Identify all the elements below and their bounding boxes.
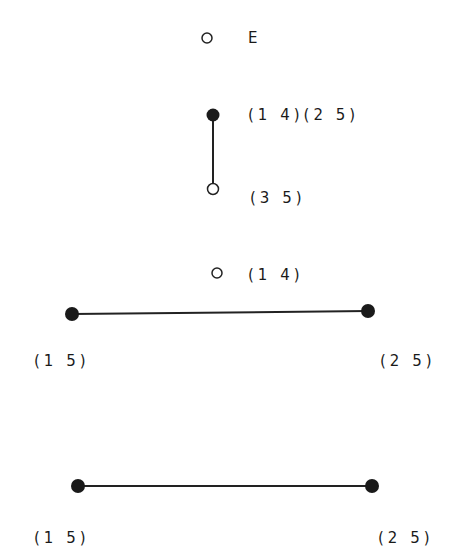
- label-v-top: (1 4)(2 5): [248, 106, 359, 124]
- label-isolated: (1 4): [248, 266, 304, 284]
- label-g3-left: (1 5): [34, 352, 90, 370]
- label-g4-left: (1 5): [34, 529, 90, 547]
- node-g4-left: [71, 479, 85, 493]
- node-g4-right: [365, 479, 379, 493]
- node-g3-right: [361, 304, 375, 318]
- diagram-canvas: [0, 0, 456, 548]
- edge-g3: [72, 311, 368, 314]
- label-v-bottom: (3 5): [250, 189, 306, 207]
- node-e: [202, 33, 212, 43]
- node-v-bottom: [208, 184, 219, 195]
- label-g4-right: (2 5): [378, 529, 434, 547]
- node-g3-left: [65, 307, 79, 321]
- label-e: E: [248, 29, 261, 47]
- node-v-top: [207, 109, 220, 122]
- label-g3-right: (2 5): [380, 352, 436, 370]
- node-isolated-14: [212, 268, 222, 278]
